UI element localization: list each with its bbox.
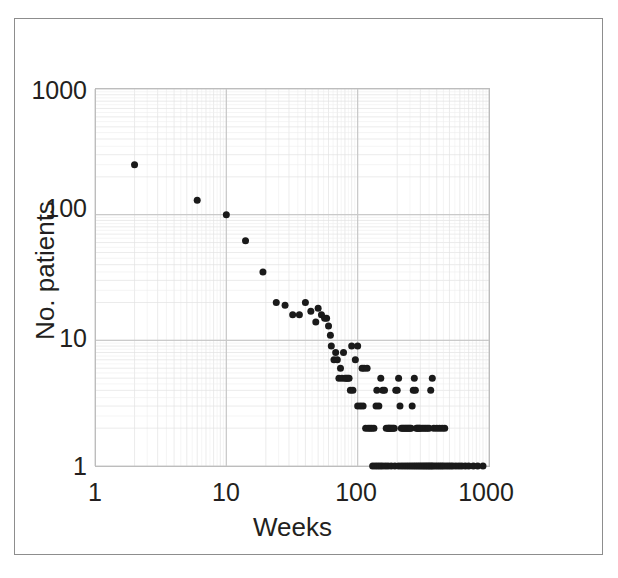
y-tick-label-1: 1 <box>0 452 87 481</box>
data-point <box>289 311 296 318</box>
data-point <box>441 425 448 432</box>
data-point <box>427 387 434 394</box>
data-point <box>340 349 347 356</box>
data-point <box>396 403 403 410</box>
data-point <box>479 463 486 470</box>
data-point <box>411 375 418 382</box>
data-point <box>429 375 436 382</box>
data-point <box>315 305 322 312</box>
data-point <box>412 387 419 394</box>
data-point <box>131 161 138 168</box>
data-point <box>352 356 359 363</box>
data-point <box>325 323 332 330</box>
y-tick-label-1000: 1000 <box>0 76 87 105</box>
data-point <box>296 311 303 318</box>
data-point <box>377 375 384 382</box>
data-point <box>395 375 402 382</box>
data-point <box>360 403 367 410</box>
data-point <box>409 403 416 410</box>
data-point <box>348 343 355 350</box>
data-point <box>312 318 319 325</box>
data-point <box>273 299 280 306</box>
data-point <box>332 349 339 356</box>
data-point <box>323 315 330 322</box>
data-point <box>381 387 388 394</box>
x-axis-title: Weeks <box>95 512 490 543</box>
data-point <box>349 387 356 394</box>
data-point <box>194 197 201 204</box>
data-point <box>391 425 398 432</box>
x-tick-label-100: 100 <box>316 478 396 507</box>
x-tick-label-10: 10 <box>186 478 266 507</box>
data-point <box>375 403 382 410</box>
x-tick-label-1: 1 <box>55 478 135 507</box>
data-point <box>302 299 309 306</box>
plot-area-border <box>96 89 490 467</box>
data-point <box>346 375 353 382</box>
data-point <box>307 308 314 315</box>
data-point <box>327 332 334 339</box>
major-gridlines <box>95 89 489 466</box>
data-points <box>131 161 486 469</box>
data-point <box>282 302 289 309</box>
data-point <box>364 365 371 372</box>
data-point <box>354 343 361 350</box>
data-point <box>337 365 344 372</box>
data-point <box>259 268 266 275</box>
data-point <box>334 356 341 363</box>
data-point <box>223 211 230 218</box>
data-point <box>370 425 377 432</box>
chart-figure: 1000 100 10 1 1 10 100 1000 No. patients… <box>0 0 618 578</box>
data-point <box>328 343 335 350</box>
x-tick-label-1000: 1000 <box>446 478 526 507</box>
data-point <box>394 387 401 394</box>
y-axis-title: No. patients <box>30 156 61 386</box>
data-point <box>242 237 249 244</box>
minor-gridlines <box>95 89 489 466</box>
